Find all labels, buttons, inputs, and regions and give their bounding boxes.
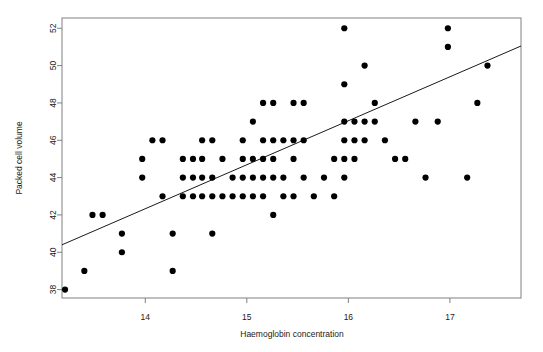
data-point (270, 175, 276, 181)
data-point (199, 156, 205, 162)
x-tick-label: 16 (344, 312, 354, 322)
y-tick-label: 42 (48, 210, 58, 220)
data-point (209, 231, 215, 237)
data-point (392, 156, 398, 162)
y-tick-label: 52 (48, 23, 58, 33)
data-point (270, 156, 276, 162)
data-point (199, 175, 205, 181)
data-point (250, 193, 256, 199)
data-point (464, 175, 470, 181)
data-point (180, 175, 186, 181)
data-point (341, 156, 347, 162)
data-point (372, 119, 378, 125)
data-point (270, 100, 276, 106)
data-point (230, 193, 236, 199)
data-point (170, 268, 176, 274)
data-point (159, 137, 165, 143)
data-point (100, 212, 106, 218)
data-point (240, 156, 246, 162)
data-point (250, 119, 256, 125)
y-tick-label: 50 (48, 61, 58, 71)
data-point (89, 212, 95, 218)
data-point (159, 193, 165, 199)
data-point (362, 119, 368, 125)
data-point (199, 193, 205, 199)
data-point (290, 193, 296, 199)
x-axis-label: Haemoglobin concentration (240, 329, 344, 339)
data-point (301, 137, 307, 143)
data-point (149, 137, 155, 143)
data-point (240, 193, 246, 199)
data-point (484, 63, 490, 69)
data-point (341, 119, 347, 125)
y-tick-label: 46 (48, 135, 58, 145)
data-point (362, 63, 368, 69)
data-point (301, 175, 307, 181)
data-point (280, 193, 286, 199)
data-point (139, 175, 145, 181)
data-point (180, 156, 186, 162)
data-point (382, 137, 388, 143)
data-point (341, 175, 347, 181)
data-point (372, 100, 378, 106)
data-point (81, 268, 87, 274)
data-point (351, 119, 357, 125)
plot-canvas: 3840424446485052 14151617 Haemoglobin co… (0, 0, 543, 352)
x-tick-label: 14 (141, 312, 151, 322)
data-point (139, 156, 145, 162)
x-tick-label: 15 (242, 312, 252, 322)
data-point (311, 193, 317, 199)
data-point (341, 137, 347, 143)
data-point (290, 137, 296, 143)
data-point (351, 156, 357, 162)
y-tick-label: 38 (48, 285, 58, 295)
data-point (260, 100, 266, 106)
data-point (190, 156, 196, 162)
data-point (301, 100, 307, 106)
data-point (474, 100, 480, 106)
data-point (180, 193, 186, 199)
data-point (119, 249, 125, 255)
data-point (280, 137, 286, 143)
data-point (250, 175, 256, 181)
y-tick-label: 44 (48, 173, 58, 183)
data-point (331, 156, 337, 162)
data-point (240, 137, 246, 143)
data-point (190, 193, 196, 199)
data-point (250, 156, 256, 162)
data-point (290, 156, 296, 162)
data-point (170, 231, 176, 237)
data-point (230, 175, 236, 181)
data-point (199, 137, 205, 143)
data-point (321, 175, 327, 181)
data-point (260, 137, 266, 143)
y-tick-label: 48 (48, 98, 58, 108)
data-point (341, 81, 347, 87)
data-point (331, 193, 337, 199)
x-tick-label: 17 (445, 312, 455, 322)
data-point (412, 119, 418, 125)
data-point (219, 193, 225, 199)
data-point (280, 175, 286, 181)
data-point (219, 156, 225, 162)
data-point (62, 287, 68, 293)
data-point (270, 137, 276, 143)
data-point (260, 175, 266, 181)
y-axis-label: Packed cell volume (14, 121, 24, 195)
data-point (435, 119, 441, 125)
data-point (362, 137, 368, 143)
data-point (119, 231, 125, 237)
data-point (270, 212, 276, 218)
data-point (351, 137, 357, 143)
data-point (209, 175, 215, 181)
data-point (422, 175, 428, 181)
data-point (209, 193, 215, 199)
data-point (260, 193, 266, 199)
data-point (341, 25, 347, 31)
data-point (402, 156, 408, 162)
data-point (290, 100, 296, 106)
data-point (260, 156, 266, 162)
data-point (445, 25, 451, 31)
data-point (209, 137, 215, 143)
y-tick-label: 40 (48, 247, 58, 257)
